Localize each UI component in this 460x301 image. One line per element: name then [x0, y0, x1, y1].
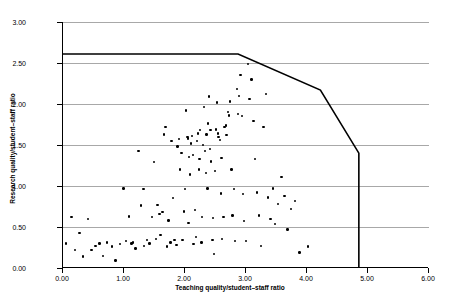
- x-tick-mark: [367, 268, 368, 273]
- scatter-point: [161, 211, 163, 213]
- scatter-point: [156, 204, 158, 206]
- scatter-point: [180, 152, 182, 154]
- scatter-point: [198, 168, 200, 170]
- x-tick-mark: [123, 268, 124, 273]
- y-axis-title: Research quality/student–staff ratio: [9, 49, 16, 249]
- scatter-point: [132, 241, 134, 243]
- scatter-point: [217, 132, 219, 134]
- scatter-point: [106, 241, 108, 243]
- scatter-point: [65, 242, 67, 244]
- scatter-point: [209, 148, 211, 150]
- scatter-point: [208, 95, 210, 97]
- scatter-point: [267, 196, 269, 198]
- x-tick-label: 0.00: [55, 275, 69, 282]
- scatter-point: [158, 213, 160, 215]
- chart-title: [150, 0, 300, 7]
- scatter-point: [196, 140, 198, 142]
- scatter-point: [248, 98, 250, 100]
- scatter-point: [233, 188, 235, 190]
- scatter-point: [238, 95, 240, 97]
- scatter-point: [223, 126, 225, 128]
- frontier-polyline: [63, 54, 359, 268]
- scatter-point: [214, 170, 216, 172]
- scatter-point: [209, 129, 211, 131]
- scatter-point: [211, 239, 213, 241]
- scatter-point: [205, 133, 207, 135]
- y-tick-label: 1.50: [12, 142, 26, 149]
- scatter-point: [191, 135, 193, 137]
- scatter-point: [241, 115, 243, 117]
- scatter-point: [230, 168, 232, 170]
- scatter-point: [239, 74, 241, 76]
- scatter-point: [183, 210, 185, 212]
- gridline-y: [63, 104, 429, 105]
- scatter-point: [260, 245, 262, 247]
- y-tick-label: 2.50: [12, 60, 26, 67]
- scatter-point: [205, 172, 207, 174]
- scatter-point: [140, 204, 142, 206]
- scatter-point: [203, 106, 205, 108]
- scatter-point: [215, 128, 217, 130]
- x-tick-label: 4.00: [299, 275, 313, 282]
- scatter-point: [245, 240, 247, 242]
- scatter-point: [155, 238, 157, 240]
- scatter-point: [159, 234, 161, 236]
- scatter-point: [128, 215, 130, 217]
- gridline-y: [63, 63, 429, 64]
- scatter-point: [225, 134, 227, 136]
- scatter-point: [172, 197, 174, 199]
- scatter-point: [220, 192, 222, 194]
- y-tick-mark: [57, 104, 62, 105]
- scatter-point: [188, 156, 190, 158]
- scatter-point: [164, 126, 166, 128]
- scatter-point: [87, 218, 89, 220]
- x-tick-label: 3.00: [238, 275, 252, 282]
- x-tick-label: 2.00: [177, 275, 191, 282]
- scatter-point: [250, 78, 252, 80]
- scatter-point: [286, 228, 288, 230]
- scatter-point: [242, 193, 244, 195]
- scatter-point: [236, 88, 238, 90]
- scatter-point: [200, 241, 202, 243]
- scatter-point: [228, 114, 230, 116]
- scatter-point: [187, 137, 189, 139]
- scatter-point: [222, 216, 224, 218]
- y-tick-label: 1.00: [12, 183, 26, 190]
- scatter-point: [151, 216, 153, 218]
- scatter-point: [199, 129, 201, 131]
- scatter-point: [181, 239, 183, 241]
- x-axis-title: Teaching quality/student–staff ratio: [0, 284, 460, 291]
- scatter-point: [217, 136, 219, 138]
- scatter-point: [82, 255, 84, 257]
- y-tick-mark: [57, 227, 62, 228]
- scatter-point: [221, 238, 223, 240]
- scatter-point: [227, 111, 229, 113]
- gridline-y: [63, 186, 429, 187]
- scatter-point: [298, 251, 300, 253]
- scatter-point: [256, 191, 258, 193]
- scatter-point: [187, 222, 189, 224]
- scatter-point: [204, 150, 206, 152]
- scatter-point: [277, 203, 279, 205]
- scatter-point: [189, 173, 191, 175]
- scatter-point: [225, 124, 227, 126]
- scatter-point: [74, 249, 76, 251]
- x-tick-label: 1.00: [116, 275, 130, 282]
- scatter-point: [146, 239, 148, 241]
- scatter-point: [178, 138, 180, 140]
- scatter-point: [234, 240, 236, 242]
- y-tick-mark: [57, 63, 62, 64]
- gridline-y: [63, 227, 429, 228]
- scatter-point: [198, 158, 200, 160]
- y-tick-label: 0.50: [12, 224, 26, 231]
- x-tick-mark: [62, 268, 63, 273]
- scatter-point: [142, 188, 144, 190]
- scatter-point: [130, 242, 132, 244]
- scatter-point: [252, 120, 254, 122]
- scatter-point: [192, 154, 194, 156]
- scatter-point: [210, 160, 212, 162]
- scatter-point: [185, 109, 187, 111]
- scatter-point: [307, 245, 309, 247]
- scatter-point: [212, 217, 214, 219]
- scatter-point: [94, 245, 96, 247]
